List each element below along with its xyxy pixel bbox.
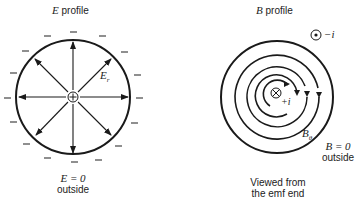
e-field-var: E [100, 69, 107, 81]
e-outside-equation: E = 0 [48, 173, 98, 184]
out-of-page-dot-icon [311, 30, 321, 40]
b-outside-word: outside [318, 152, 358, 163]
e-profile-title: E profile [52, 5, 89, 16]
b-title-var: B [256, 4, 263, 16]
b-outside-equation: B = 0 [318, 141, 358, 152]
e-title-word: profile [62, 5, 89, 16]
e-profile-diagram [4, 32, 143, 162]
view-caption-line2: the emf end [245, 188, 311, 199]
into-page-cross-icon [271, 88, 281, 98]
b-outside-caption: B = 0 outside [318, 141, 358, 163]
e-r-label: Er [100, 70, 109, 86]
e-field-sub: r [107, 76, 110, 84]
e-outside-word: outside [48, 184, 98, 195]
return-current-label: −i [324, 29, 334, 40]
center-plus-icon [68, 92, 78, 102]
e-title-var: E [52, 4, 59, 16]
e-outside-caption: E = 0 outside [48, 173, 98, 195]
diagram-canvas [0, 0, 358, 201]
view-caption: Viewed from the emf end [245, 177, 311, 199]
b-field-var: B [302, 127, 309, 139]
view-caption-line1: Viewed from [245, 177, 311, 188]
center-current-label: +i [281, 96, 291, 107]
b-theta-label: Bθ [302, 128, 312, 144]
b-profile-diagram [221, 30, 333, 153]
b-profile-title: B profile [256, 5, 293, 16]
b-title-word: profile [266, 5, 293, 16]
b-field-sub: θ [309, 134, 312, 142]
